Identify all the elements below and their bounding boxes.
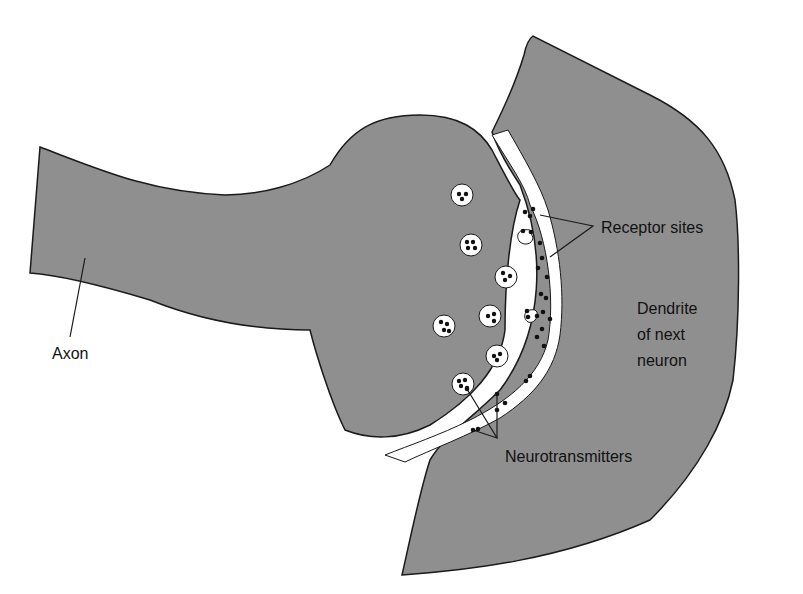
dendrite-label-line1: Dendrite (637, 300, 698, 317)
dendrite-label-line2: of next (637, 326, 686, 343)
vesicle (486, 345, 508, 367)
neurotransmitters-label: Neurotransmitters (505, 448, 632, 465)
vesicle (451, 184, 473, 206)
vesicle (452, 373, 474, 395)
vesicle (479, 305, 501, 327)
receptor-sites-label: Receptor sites (601, 219, 703, 236)
dendrite-label-line3: neuron (637, 352, 687, 369)
axon-label: Axon (52, 345, 88, 362)
axon-terminal-shape (30, 115, 520, 437)
vesicle (433, 315, 455, 337)
synapse-diagram: Axon Receptor sites Dendrite of next neu… (0, 0, 803, 594)
vesicle (460, 234, 482, 256)
vesicle (495, 266, 517, 288)
